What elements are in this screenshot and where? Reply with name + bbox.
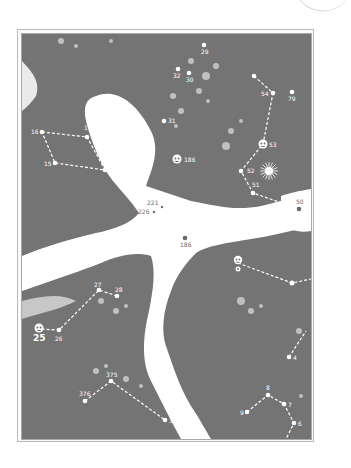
waypoint-28[interactable] <box>115 294 120 299</box>
label-16: 16 <box>31 128 39 135</box>
map-frame: 29 32 30 54 79 31 16 17 15 53 186 52 51 … <box>17 29 314 442</box>
label-15: 15 <box>44 160 52 167</box>
label-54: 54 <box>261 90 269 97</box>
label-7: 7 <box>288 401 292 408</box>
waypoint-51[interactable] <box>251 191 256 196</box>
label-52: 52 <box>247 167 255 174</box>
waypoint-8[interactable] <box>266 393 271 398</box>
label-51: 51 <box>252 181 260 188</box>
label-30: 30 <box>186 76 194 83</box>
label-8: 8 <box>266 384 270 391</box>
label-9: 9 <box>240 409 244 416</box>
waypoint-869[interactable] <box>49 246 54 251</box>
waypoint-29[interactable] <box>202 43 207 48</box>
label-28: 28 <box>115 286 123 293</box>
ring-marker-icon[interactable] <box>236 267 241 272</box>
waypoint-16[interactable] <box>40 130 45 135</box>
waypoint-376[interactable] <box>83 399 88 404</box>
waypoint-17[interactable] <box>85 135 90 140</box>
label-32: 32 <box>173 72 181 79</box>
skull-icon[interactable] <box>234 256 242 264</box>
waypoint-226[interactable] <box>153 211 155 213</box>
waypoint-4[interactable] <box>287 355 292 360</box>
skull-icon[interactable] <box>35 324 44 333</box>
map-canvas: 29 32 30 54 79 31 16 17 15 53 186 52 51 … <box>21 33 312 440</box>
waypoint-54[interactable] <box>271 91 276 96</box>
label-221: 221 <box>147 199 159 206</box>
label-25: 25 <box>33 333 46 343</box>
label-377: 377 <box>169 417 181 424</box>
waypoint-186b[interactable] <box>183 236 188 241</box>
label-26: 26 <box>55 335 63 342</box>
label-17: 17 <box>84 124 92 131</box>
waypoint-1[interactable] <box>290 281 295 286</box>
waypoint-26[interactable] <box>57 328 62 333</box>
label-31: 31 <box>168 117 176 124</box>
waypoint-221[interactable] <box>161 206 163 208</box>
waypoint-32[interactable] <box>176 67 181 72</box>
label-29: 29 <box>201 48 209 55</box>
label-375: 375 <box>106 371 118 378</box>
label-79: 79 <box>288 95 296 102</box>
label-376: 376 <box>79 390 91 397</box>
waypoint-9[interactable] <box>245 410 250 415</box>
path-0-1 <box>238 263 311 283</box>
sun-burst-icon[interactable] <box>260 162 278 180</box>
path-9-8-7-6 <box>247 395 294 439</box>
skull-icon[interactable] <box>173 155 182 164</box>
waypoint-79[interactable] <box>290 90 295 95</box>
label-186: 186 <box>184 156 196 163</box>
waypoint-375[interactable] <box>109 379 114 384</box>
waypoint-50[interactable] <box>297 207 302 212</box>
label-186b: 186 <box>180 241 192 248</box>
label-6: 6 <box>298 420 302 427</box>
waypoint-30[interactable] <box>187 71 192 76</box>
label-53: 53 <box>269 141 277 148</box>
skull-icon[interactable] <box>259 140 268 149</box>
waypoint-6[interactable] <box>292 421 297 426</box>
waypoint-31[interactable] <box>162 119 167 124</box>
label-869: 869 <box>45 251 57 258</box>
waypoint-14[interactable] <box>103 168 108 173</box>
waypoint-377[interactable] <box>163 418 168 423</box>
waypoint-54a[interactable] <box>252 74 257 79</box>
waypoint-15[interactable] <box>53 161 58 166</box>
waypoint-7[interactable] <box>282 402 287 407</box>
waypoint-52[interactable] <box>239 169 244 174</box>
label-226: 226 <box>138 208 150 215</box>
label-50: 50 <box>296 198 304 205</box>
forest-map: 29 32 30 54 79 31 16 17 15 53 186 52 51 … <box>22 34 311 439</box>
path-376-375-377 <box>85 381 165 420</box>
waypoint-27[interactable] <box>97 288 102 293</box>
page-curl <box>285 0 351 19</box>
label-4: 4 <box>293 354 297 361</box>
path-4 <box>289 331 306 357</box>
label-27: 27 <box>94 281 102 288</box>
